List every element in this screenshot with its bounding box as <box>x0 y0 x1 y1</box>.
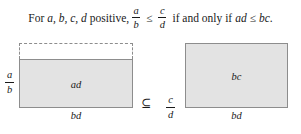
statement-variables: a, b, c, d <box>47 12 87 24</box>
right-height-fraction-denominator: d <box>167 109 174 121</box>
right-height-fraction-c-over-d: c d <box>163 94 178 120</box>
right-height-fraction-bar <box>166 107 175 108</box>
right-base-label-bd: bd <box>185 110 288 121</box>
left-height-fraction-a-over-b: a b <box>2 69 17 95</box>
statement-relation-2: ≤ <box>250 12 256 24</box>
statement-relation-1: ≤ <box>146 12 152 24</box>
statement-connector: if and only if <box>172 12 232 24</box>
right-height-fraction-numerator: c <box>167 94 174 106</box>
fraction-c-over-d-numerator: c <box>159 5 166 16</box>
statement-lead: For <box>28 12 44 24</box>
left-rectangle-label: ad <box>20 78 132 89</box>
fraction-a-over-b-denominator: b <box>133 19 140 30</box>
left-rectangle-ad: ad <box>19 59 133 108</box>
statement-positive: positive, <box>90 12 129 24</box>
right-rectangle-label: bc <box>186 70 287 81</box>
fraction-a-over-b: a b <box>132 5 140 29</box>
left-height-fraction-bar <box>5 82 14 83</box>
statement-product-right: bc <box>259 12 270 24</box>
area-comparison-figure: ad a b bd ⊆ c d bc bd <box>0 36 301 134</box>
subset-symbol: ⊆ <box>138 96 154 111</box>
fraction-a-over-b-numerator: a <box>133 5 140 16</box>
right-rectangle-bc: bc <box>185 43 288 108</box>
statement-product-left: ad <box>235 12 247 24</box>
left-base-label-bd: bd <box>19 110 133 121</box>
left-height-fraction-denominator: b <box>6 84 13 96</box>
fraction-c-over-d: c d <box>158 5 166 29</box>
statement-period: . <box>270 12 273 24</box>
dashed-extension-box <box>19 43 133 59</box>
fraction-c-over-d-denominator: d <box>159 19 166 30</box>
theorem-statement: For a, b, c, d positive, a b ≤ c d if an… <box>0 0 301 36</box>
left-height-fraction-numerator: a <box>6 69 13 81</box>
